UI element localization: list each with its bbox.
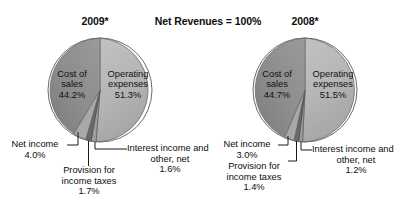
callout-provision-income-taxes-2008: Provision for income taxes 1.4% xyxy=(222,161,286,193)
callout-interest-income-other-2008: Interest income and other, net 1.2% xyxy=(312,144,400,176)
operating-expenses-line2: expenses xyxy=(102,79,154,89)
slice-label-cost-of-sales-2009: Cost of sales 44.2% xyxy=(48,69,96,100)
interest-line2-2008: other, net xyxy=(312,155,400,166)
interest-line1-2009: Interest income and xyxy=(127,143,213,154)
operating-expenses-value: 51.3% xyxy=(102,90,154,100)
cost-of-sales-value: 44.2% xyxy=(48,90,96,100)
provision-line2-2009: income taxes xyxy=(57,176,121,187)
leader-provision-2008 xyxy=(288,141,297,161)
provision-value-2009: 1.7% xyxy=(57,186,121,197)
operating-expenses-line1: Operating xyxy=(102,69,154,79)
callout-net-income-2009: Net income 4.0% xyxy=(4,139,66,160)
operating-expenses-line1-2008: Operating xyxy=(307,69,359,79)
provision-line2-2008: income taxes xyxy=(222,172,286,183)
leader-interest-2008 xyxy=(301,142,312,150)
cost-of-sales-line2-2008: sales xyxy=(253,79,301,89)
cost-of-sales-value-2008: 44.7% xyxy=(253,90,301,100)
net-income-name-2009: Net income xyxy=(4,139,66,150)
operating-expenses-value-2008: 51.5% xyxy=(307,90,359,100)
interest-value-2009: 1.6% xyxy=(127,164,213,175)
callout-provision-income-taxes-2009: Provision for income taxes 1.7% xyxy=(57,165,121,197)
cost-of-sales-line2: sales xyxy=(48,79,96,89)
net-income-value-2008: 3.0% xyxy=(216,150,278,161)
net-income-value-2009: 4.0% xyxy=(4,150,66,161)
leader-interest-2009 xyxy=(95,142,127,149)
slice-label-operating-expenses-2009: Operating expenses 51.3% xyxy=(102,69,154,100)
provision-line1-2009: Provision for xyxy=(57,165,121,176)
interest-line2-2009: other, net xyxy=(127,154,213,165)
callout-net-income-2008: Net income 3.0% xyxy=(216,139,278,160)
slice-label-cost-of-sales-2008: Cost of sales 44.7% xyxy=(253,69,301,100)
interest-line1-2008: Interest income and xyxy=(312,144,400,155)
cost-of-sales-line1-2008: Cost of xyxy=(253,69,301,79)
provision-line1-2008: Provision for xyxy=(222,161,286,172)
slice-label-operating-expenses-2008: Operating expenses 51.5% xyxy=(307,69,359,100)
net-income-name-2008: Net income xyxy=(216,139,278,150)
provision-value-2008: 1.4% xyxy=(222,182,286,193)
operating-expenses-line2-2008: expenses xyxy=(307,79,359,89)
net-revenues-pie-figure: 2009* Net Revenues = 100% 2008* xyxy=(0,0,416,209)
callout-interest-income-other-2009: Interest income and other, net 1.6% xyxy=(127,143,213,175)
interest-value-2008: 1.2% xyxy=(312,165,400,176)
cost-of-sales-line1: Cost of xyxy=(48,69,96,79)
